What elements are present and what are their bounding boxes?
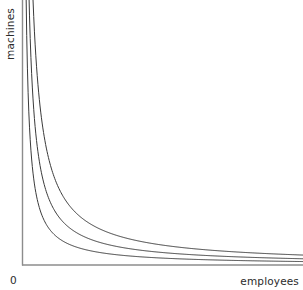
x-axis-label: employees (240, 275, 299, 287)
isoquant-curve-3 (32, 0, 303, 255)
y-axis-label: machines (4, 8, 16, 60)
origin-label: 0 (10, 274, 17, 286)
isoquant-figure: machines employees 0 (0, 0, 303, 290)
plot-area (0, 0, 303, 290)
isoquant-curve-1 (26, 0, 303, 262)
isoquant-curve-2 (29, 0, 303, 259)
